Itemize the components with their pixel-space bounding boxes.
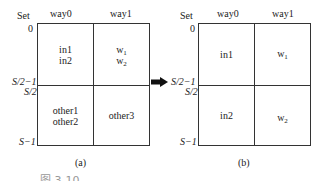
way0-header: way0 <box>217 9 239 19</box>
caption-a: (a) <box>75 157 86 168</box>
way1-header: way1 <box>110 9 132 19</box>
block-in2: in2 <box>220 110 233 121</box>
block-in1: in1 <box>220 49 233 60</box>
block-w2: w2 <box>116 55 127 66</box>
cell-bottom-way1: w2 <box>255 86 310 148</box>
cell-bottom-way0: in2 <box>199 86 254 145</box>
block-other3: other3 <box>109 110 135 121</box>
row-label-s2: S/2 <box>185 87 198 97</box>
cell-bottom-way0: other1 other2 <box>38 86 93 145</box>
cell-bottom-way1: other3 <box>94 86 149 145</box>
block-w2: w2 <box>277 112 288 123</box>
row-label-0: 0 <box>28 24 33 34</box>
block-in2: in2 <box>59 55 72 66</box>
way0-header: way0 <box>50 9 72 19</box>
caption-b: (b) <box>238 157 250 168</box>
block-other1: other1 <box>53 105 79 116</box>
set-header: Set <box>180 11 193 21</box>
cell-top-way0: in1 in2 <box>38 24 93 85</box>
cell-top-way0: in1 <box>199 24 254 85</box>
cell-top-way1: w1 w2 <box>94 24 149 85</box>
set-header: Set <box>17 11 30 21</box>
figure-caption: 图 3-10 …… <box>40 174 280 181</box>
block-w1: w1 <box>116 44 127 55</box>
right-arrow-icon <box>151 77 168 87</box>
row-label-s2: S/2 <box>24 87 37 97</box>
row-label-0: 0 <box>190 24 195 34</box>
way1-header: way1 <box>272 9 294 19</box>
block-other2: other2 <box>53 116 79 127</box>
block-w1: w1 <box>277 48 288 59</box>
row-label-s-minus-1: S−1 <box>19 137 36 147</box>
row-label-s-minus-1: S−1 <box>180 137 197 147</box>
cell-top-way1: w1 <box>255 24 310 82</box>
block-in1: in1 <box>59 44 72 55</box>
